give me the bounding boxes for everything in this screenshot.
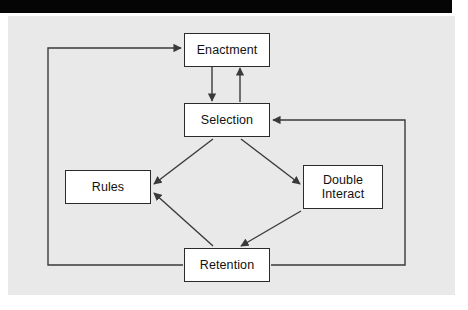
node-double-interact-label-line2: Interact	[322, 187, 365, 201]
node-double-interact[interactable]: Double Interact	[303, 165, 383, 209]
node-rules[interactable]: Rules	[65, 170, 151, 204]
node-selection-label: Selection	[201, 113, 253, 127]
node-selection[interactable]: Selection	[184, 103, 270, 137]
node-rules-label: Rules	[92, 180, 124, 194]
edge-selection-to-rules	[154, 139, 213, 184]
node-enactment-label: Enactment	[197, 43, 258, 57]
node-retention-label: Retention	[200, 258, 254, 272]
node-retention[interactable]: Retention	[184, 248, 270, 282]
edge-retention-to-enactment-loop	[48, 48, 183, 265]
node-enactment[interactable]: Enactment	[184, 33, 270, 67]
edge-double-interact-to-retention	[241, 211, 301, 246]
screenshot-root: Enactment Selection Rules Double Interac…	[0, 0, 468, 310]
edge-retention-to-rules	[154, 193, 213, 246]
node-double-interact-label-line1: Double	[322, 173, 365, 187]
edge-selection-to-double-interact	[241, 139, 300, 184]
